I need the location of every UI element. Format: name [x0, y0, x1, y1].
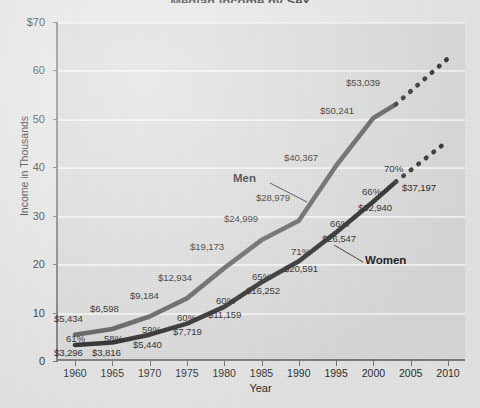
women-value-label-1990: $20,591: [284, 263, 318, 274]
x-tickmark-1965: [112, 361, 113, 366]
women-line: [75, 182, 396, 345]
x-tickmark-1970: [150, 361, 151, 366]
x-tick-label-1960: 1960: [63, 367, 86, 379]
women-value-label-2000: $32,940: [358, 202, 392, 213]
y-tick-label-60: 60: [0, 64, 45, 76]
x-tick-label-2005: 2005: [399, 367, 422, 379]
x-tickmark-2010: [448, 361, 449, 366]
ratio-label-2003: 70%: [384, 163, 403, 174]
x-tick-label-1975: 1975: [175, 367, 198, 379]
y-tick-label-30: 30: [0, 210, 45, 222]
chart-title: Median Income by Sex: [0, 0, 480, 3]
y-tick-label-70: $70: [0, 16, 45, 28]
x-tickmark-2000: [373, 361, 374, 366]
men-value-label-1995: $40,367: [284, 152, 318, 163]
x-axis-label: Year: [56, 382, 465, 394]
men-value-label-1960: $5,434: [54, 313, 83, 324]
x-tick-label-1980: 1980: [213, 367, 236, 379]
women-value-label-1985: $16,252: [246, 285, 280, 296]
ratio-label-1990: 71%: [291, 246, 310, 257]
men-value-label-1990: $28,979: [256, 192, 290, 203]
ratio-label-2000: 66%: [362, 186, 381, 197]
x-tick-label-1970: 1970: [138, 367, 161, 379]
men-value-label-1980: $19,173: [190, 241, 224, 252]
x-tickmark-1960: [75, 361, 76, 366]
series-label-women: Women: [365, 254, 406, 266]
y-tickmark-0: [53, 361, 58, 362]
ratio-label-1975: 60%: [177, 312, 196, 323]
women-value-label-1960: $3,296: [54, 347, 83, 358]
men-value-label-2000: $50,241: [320, 105, 354, 116]
x-tick-label-1985: 1985: [250, 367, 273, 379]
women-value-label-1975: $7,719: [173, 326, 202, 337]
men-value-label-1985: $24,999: [224, 213, 258, 224]
ratio-label-1965: 58%: [104, 333, 123, 344]
women-projection-line: [396, 141, 448, 182]
x-tick-label-1965: 1965: [101, 367, 124, 379]
x-tickmark-2005: [411, 361, 412, 366]
x-tickmark-1990: [299, 361, 300, 366]
women-value-label-1965: $3,816: [92, 347, 121, 358]
men-projection-line: [396, 58, 448, 104]
women-value-label-2003: $37,197: [402, 182, 436, 193]
women-value-label-1970: $5,440: [133, 339, 162, 350]
ratio-label-1995: 66%: [330, 218, 349, 229]
ratio-label-1985: 65%: [252, 271, 271, 282]
men-value-label-2003: $53,039: [346, 77, 380, 88]
ratio-label-1960: 61%: [66, 333, 85, 344]
y-tick-label-40: 40: [0, 161, 45, 173]
women-leader-line: [334, 245, 363, 262]
ratio-label-1970: 59%: [142, 324, 161, 335]
women-value-label-1995: $26,547: [322, 233, 356, 244]
x-tick-label-2010: 2010: [436, 367, 459, 379]
x-tickmark-1985: [262, 361, 263, 366]
men-value-label-1970: $9,184: [130, 290, 159, 301]
men-value-label-1975: $12,934: [158, 272, 192, 283]
y-tick-label-0: 0: [0, 355, 45, 367]
y-tick-label-10: 10: [0, 307, 45, 319]
x-tickmark-1995: [336, 361, 337, 366]
chart-page: Median Income by Sex Income in Thousands…: [0, 0, 480, 408]
x-tick-label-1995: 1995: [324, 367, 347, 379]
y-tick-label-50: 50: [0, 113, 45, 125]
x-tick-label-1990: 1990: [287, 367, 310, 379]
series-label-men: Men: [233, 172, 256, 184]
y-tick-label-20: 20: [0, 258, 45, 270]
plot-area: $70 60 50 40 30 20 10 0 1960 1965 1970 1…: [56, 22, 465, 361]
men-value-label-1965: $6,598: [90, 303, 119, 314]
ratio-label-1980: 60%: [216, 295, 235, 306]
x-tickmark-1980: [224, 361, 225, 366]
women-value-label-1980: $11,159: [208, 309, 241, 320]
x-tick-label-2000: 2000: [362, 367, 385, 379]
x-tickmark-1975: [187, 361, 188, 366]
